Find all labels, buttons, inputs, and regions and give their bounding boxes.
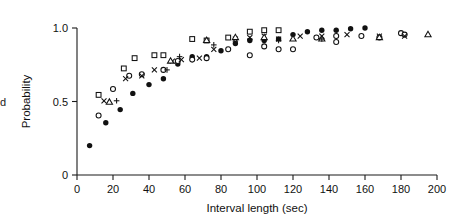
datapoint-open-triangle xyxy=(290,36,296,41)
datapoint-filled-circle xyxy=(146,82,151,87)
datapoint-x xyxy=(345,32,350,37)
datapoint-open-square xyxy=(132,56,137,61)
scatter-plot: 02040608010012014016018020000.51.0Interv… xyxy=(0,0,463,223)
datapoint-filled-circle xyxy=(348,26,353,31)
data-markers xyxy=(87,25,431,148)
x-tick-label: 120 xyxy=(284,183,302,195)
datapoint-open-circle xyxy=(96,113,101,118)
datapoint-x xyxy=(123,76,128,81)
datapoint-filled-circle xyxy=(87,143,92,148)
datapoint-open-circle xyxy=(190,57,195,62)
datapoint-open-triangle xyxy=(425,31,431,36)
datapoint-open-square xyxy=(226,35,231,40)
x-tick-label: 200 xyxy=(428,183,446,195)
datapoint-open-square xyxy=(161,53,166,58)
y-tick-label: 1.0 xyxy=(53,22,68,34)
datapoint-x xyxy=(298,34,303,39)
x-tick-label: 180 xyxy=(392,183,410,195)
datapoint-open-circle xyxy=(314,35,319,40)
datapoint-open-circle xyxy=(276,47,281,52)
datapoint-filled-circle xyxy=(319,28,324,33)
datapoint-filled-circle xyxy=(218,48,223,53)
datapoint-open-circle xyxy=(111,87,116,92)
y-tick-label: 0 xyxy=(62,169,68,181)
datapoint-plus xyxy=(114,98,120,104)
datapoint-x xyxy=(197,56,202,61)
figure-root: d 02040608010012014016018020000.51.0Inte… xyxy=(0,0,463,223)
datapoint-open-square xyxy=(190,37,195,42)
datapoint-open-circle xyxy=(262,44,267,49)
datapoint-open-circle xyxy=(291,47,296,52)
datapoint-filled-circle xyxy=(130,91,135,96)
x-tick-label: 60 xyxy=(179,183,191,195)
x-axis-title: Interval length (sec) xyxy=(207,202,308,214)
datapoint-open-circle xyxy=(226,47,231,52)
datapoint-filled-circle xyxy=(362,25,367,30)
datapoint-filled-circle xyxy=(305,29,310,34)
datapoint-open-square xyxy=(276,28,281,33)
datapoint-open-triangle xyxy=(261,34,267,39)
datapoint-open-circle xyxy=(334,34,339,39)
x-tick-label: 160 xyxy=(356,183,374,195)
x-tick-label: 20 xyxy=(107,183,119,195)
datapoint-filled-circle xyxy=(118,107,123,112)
x-tick-label: 140 xyxy=(320,183,338,195)
datapoint-open-square xyxy=(262,28,267,33)
datapoint-open-square xyxy=(121,66,126,71)
datapoint-filled-circle xyxy=(103,120,108,125)
datapoint-open-triangle xyxy=(106,99,112,104)
datapoint-open-circle xyxy=(334,39,339,44)
x-tick-label: 80 xyxy=(215,183,227,195)
datapoint-filled-circle xyxy=(161,76,166,81)
y-axis-title: Probability xyxy=(20,74,32,128)
datapoint-x xyxy=(102,98,107,103)
x-tick-label: 0 xyxy=(74,183,80,195)
datapoint-open-circle xyxy=(247,53,252,58)
x-tick-label: 100 xyxy=(248,183,266,195)
y-tick-label: 0.5 xyxy=(53,96,68,108)
datapoint-open-square xyxy=(247,29,252,34)
datapoint-filled-circle xyxy=(334,28,339,33)
plot-axes xyxy=(72,28,437,180)
plot-text-labels: 02040608010012014016018020000.51.0Interv… xyxy=(20,22,446,214)
datapoint-open-square xyxy=(152,53,157,58)
datapoint-x xyxy=(152,67,157,72)
datapoint-open-circle xyxy=(359,34,364,39)
datapoint-open-square xyxy=(96,92,101,97)
datapoint-open-circle xyxy=(204,56,209,61)
x-tick-label: 40 xyxy=(143,183,155,195)
